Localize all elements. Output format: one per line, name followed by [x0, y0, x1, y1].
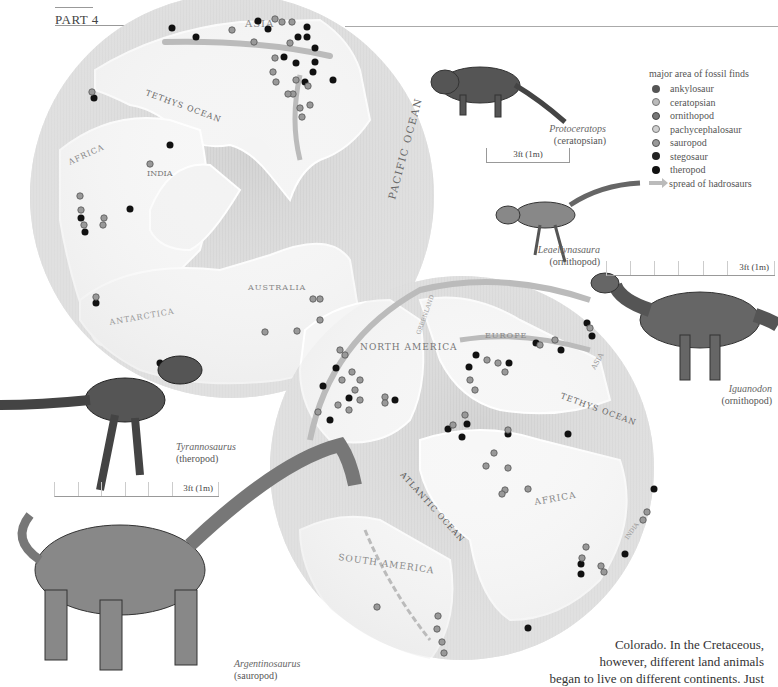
caption-tyrannosaurus: Tyrannosaurus (theropod) — [176, 441, 236, 465]
label-india: INDIA — [147, 169, 173, 178]
caption-argentinosaurus: Argentinosaurus (sauropod) — [234, 658, 300, 682]
arrow-right-icon — [649, 181, 663, 185]
scale-bar-tyrannosaurus: 3ft (1m) — [54, 482, 219, 497]
ornithopod-dot-icon — [652, 112, 660, 120]
body-text: Colorado. In the Cretaceous, however, di… — [504, 636, 764, 687]
protoceratops-illustration — [431, 67, 565, 122]
caption-protoceratops: Protoceratops (ceratopsian) — [549, 123, 606, 147]
scale-bar-protoceratops: 3ft (1m) — [486, 148, 570, 163]
sauropod-dot-icon — [652, 139, 660, 147]
legend-item-ankylosaur: ankylosaur — [652, 82, 752, 96]
legend-item-sauropod: sauropod — [652, 136, 752, 150]
legend-item-stegosaur: stegosaur — [652, 150, 752, 164]
ankylosaur-dot-icon — [652, 85, 660, 93]
stegosaur-dot-icon — [652, 152, 660, 160]
legend-item-hadrosaur-spread: spread of hadrosaurs — [652, 177, 752, 191]
legend-item-theropod: theropod — [652, 163, 752, 177]
caption-leaellynasaura: Leaellynasaura (ornithopod) — [538, 244, 600, 268]
pachycephalosaur-dot-icon — [652, 125, 660, 133]
tyrannosaurus-illustration — [0, 356, 202, 490]
legend-item-ornithopod: ornithopod — [652, 109, 752, 123]
label-europe: EUROPE — [485, 331, 527, 340]
globe-americas-africa: NORTH AMERICA GREENLAND EUROPE ASIA TETH… — [270, 276, 654, 660]
scale-bar-iguanodon: 3ft (1m) — [606, 261, 775, 276]
theropod-dot-icon — [652, 166, 660, 174]
legend-item-pachycephalosaur: pachycephalosaur — [652, 123, 752, 137]
label-australia: AUSTRALIA — [247, 283, 306, 292]
legend: major area of fossil finds ankylosaur ce… — [652, 68, 752, 190]
caption-iguanodon: Iguanodon (ornithopod) — [721, 383, 772, 407]
legend-item-ceratopsian: ceratopsian — [652, 96, 752, 110]
label-north-america: NORTH AMERICA — [360, 342, 458, 352]
ceratopsian-dot-icon — [652, 98, 660, 106]
legend-title: major area of fossil finds — [649, 68, 752, 79]
